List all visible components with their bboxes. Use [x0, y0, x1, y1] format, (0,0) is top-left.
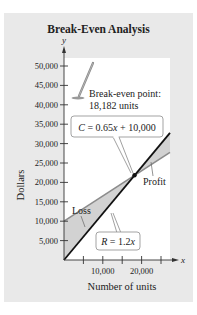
profit-label: Profit [143, 176, 166, 187]
y-tick-label: 25,000 [35, 158, 58, 168]
y-tick-label: 5,000 [39, 236, 58, 246]
y-tick-label: 30,000 [35, 139, 58, 149]
x-axis-title: Number of units [88, 281, 157, 292]
y-tick-label: 35,000 [35, 119, 58, 129]
x-tick-label: 20,000 [130, 266, 153, 276]
y-axis-title: Dollars [15, 170, 26, 201]
y-tick-label: 50,000 [35, 61, 58, 71]
y-axis-arrow-icon [62, 46, 66, 53]
break-even-point [132, 173, 136, 177]
break-even-label: Break-even point: [89, 88, 161, 99]
break-even-units: 18,182 units [89, 100, 139, 111]
y-tick-label: 40,000 [35, 100, 58, 110]
y-tick-label: 45,000 [35, 80, 58, 90]
loss-label: Loss [72, 205, 91, 216]
x-tick-label: 10,000 [91, 266, 114, 276]
x-axis-symbol: x [180, 255, 185, 265]
y-tick-label: 10,000 [35, 216, 58, 226]
y-tick-labels: 5,000 10,000 15,000 20,000 25,000 30,000… [35, 61, 58, 246]
x-tick-labels: 10,000 20,000 [91, 266, 153, 276]
y-axis-symbol: y [61, 35, 66, 45]
cost-equation: C = 0.65x + 10,000 [78, 122, 155, 133]
break-even-chart: Break-Even Analysis y x 5,000 10,000 15,… [0, 0, 197, 315]
y-tick-label: 20,000 [35, 177, 58, 187]
y-tick-label: 15,000 [35, 197, 58, 207]
x-axis-arrow-icon [172, 258, 179, 262]
revenue-equation: R = 1.2x [100, 236, 135, 247]
